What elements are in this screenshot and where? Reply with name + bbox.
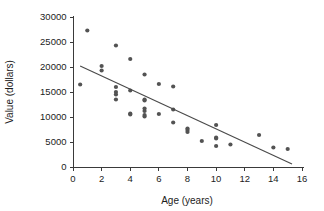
y-tick-label: 5000 xyxy=(45,136,66,147)
data-point xyxy=(142,72,146,76)
x-axis-title: Age (years) xyxy=(161,195,213,206)
y-axis-title: Value (dollars) xyxy=(4,60,15,124)
data-point xyxy=(171,84,175,88)
data-point xyxy=(271,145,275,149)
x-axis-ticks: 0246810121416 xyxy=(70,167,307,184)
data-point xyxy=(114,97,118,101)
chart-container: 050001000015000200002500030000 024681012… xyxy=(0,0,324,211)
trend-line xyxy=(80,66,292,164)
data-point xyxy=(200,139,204,143)
data-points-group xyxy=(78,28,290,151)
data-point xyxy=(128,112,132,116)
data-point xyxy=(185,130,189,134)
data-point xyxy=(157,112,161,116)
data-point xyxy=(114,85,118,89)
scatter-plot: 050001000015000200002500030000 024681012… xyxy=(0,0,324,211)
x-tick-label: 16 xyxy=(297,173,308,184)
data-point xyxy=(228,142,232,146)
data-point xyxy=(85,28,89,32)
data-point xyxy=(100,64,104,68)
data-point xyxy=(257,133,261,137)
y-tick-label: 15000 xyxy=(40,86,66,97)
x-tick-label: 2 xyxy=(99,173,104,184)
data-point xyxy=(142,109,146,113)
data-point xyxy=(114,43,118,47)
data-point xyxy=(214,136,218,140)
y-tick-label: 30000 xyxy=(40,11,66,22)
data-point xyxy=(171,120,175,124)
x-tick-label: 6 xyxy=(156,173,161,184)
data-point xyxy=(128,57,132,61)
data-point xyxy=(157,82,161,86)
data-point xyxy=(100,68,104,72)
x-tick-label: 0 xyxy=(70,173,75,184)
data-point xyxy=(142,98,146,102)
y-tick-label: 0 xyxy=(61,161,66,172)
data-point xyxy=(214,123,218,127)
y-axis-ticks: 050001000015000200002500030000 xyxy=(40,11,73,172)
y-tick-label: 25000 xyxy=(40,36,66,47)
data-point xyxy=(142,114,146,118)
data-point xyxy=(114,92,118,96)
x-tick-label: 12 xyxy=(239,173,250,184)
y-tick-label: 10000 xyxy=(40,111,66,122)
x-tick-label: 14 xyxy=(268,173,279,184)
data-point xyxy=(78,82,82,86)
data-point xyxy=(286,147,290,151)
x-tick-label: 10 xyxy=(211,173,222,184)
y-tick-label: 20000 xyxy=(40,61,66,72)
data-point xyxy=(214,144,218,148)
x-tick-label: 4 xyxy=(128,173,133,184)
x-tick-label: 8 xyxy=(185,173,190,184)
